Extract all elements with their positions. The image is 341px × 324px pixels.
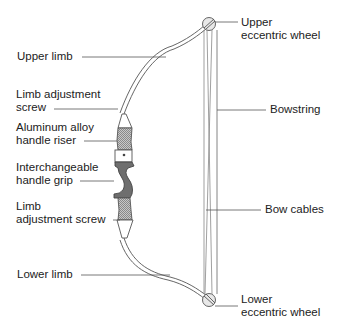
label-bowstring: Bowstring (270, 103, 321, 116)
lower-limb-adjustment-screw (117, 220, 133, 238)
bow-cables (204, 30, 212, 294)
lower-limb (120, 238, 207, 299)
upper-eccentric-wheel (203, 18, 216, 31)
handle-grip (114, 162, 134, 198)
handle-riser (115, 128, 132, 162)
handle-riser-lower (118, 198, 132, 220)
label-upper-eccentric-wheel: Upper eccentric wheel (241, 16, 320, 42)
label-handle-grip: Interchangeable handle grip (16, 161, 98, 187)
label-lower-limb-adjustment-screw: Limb adjustment screw (16, 200, 105, 226)
upper-limb-adjustment-screw (118, 114, 132, 128)
label-upper-limb-adjustment-screw: Limb adjustment screw (16, 88, 100, 114)
upper-limb (120, 25, 207, 114)
lower-eccentric-wheel (203, 294, 216, 307)
label-handle-riser: Aluminum alloy handle riser (16, 121, 94, 147)
label-lower-eccentric-wheel: Lower eccentric wheel (241, 293, 320, 319)
label-lower-limb: Lower limb (17, 268, 73, 281)
label-bow-cables: Bow cables (265, 203, 324, 216)
label-upper-limb: Upper limb (17, 50, 73, 63)
